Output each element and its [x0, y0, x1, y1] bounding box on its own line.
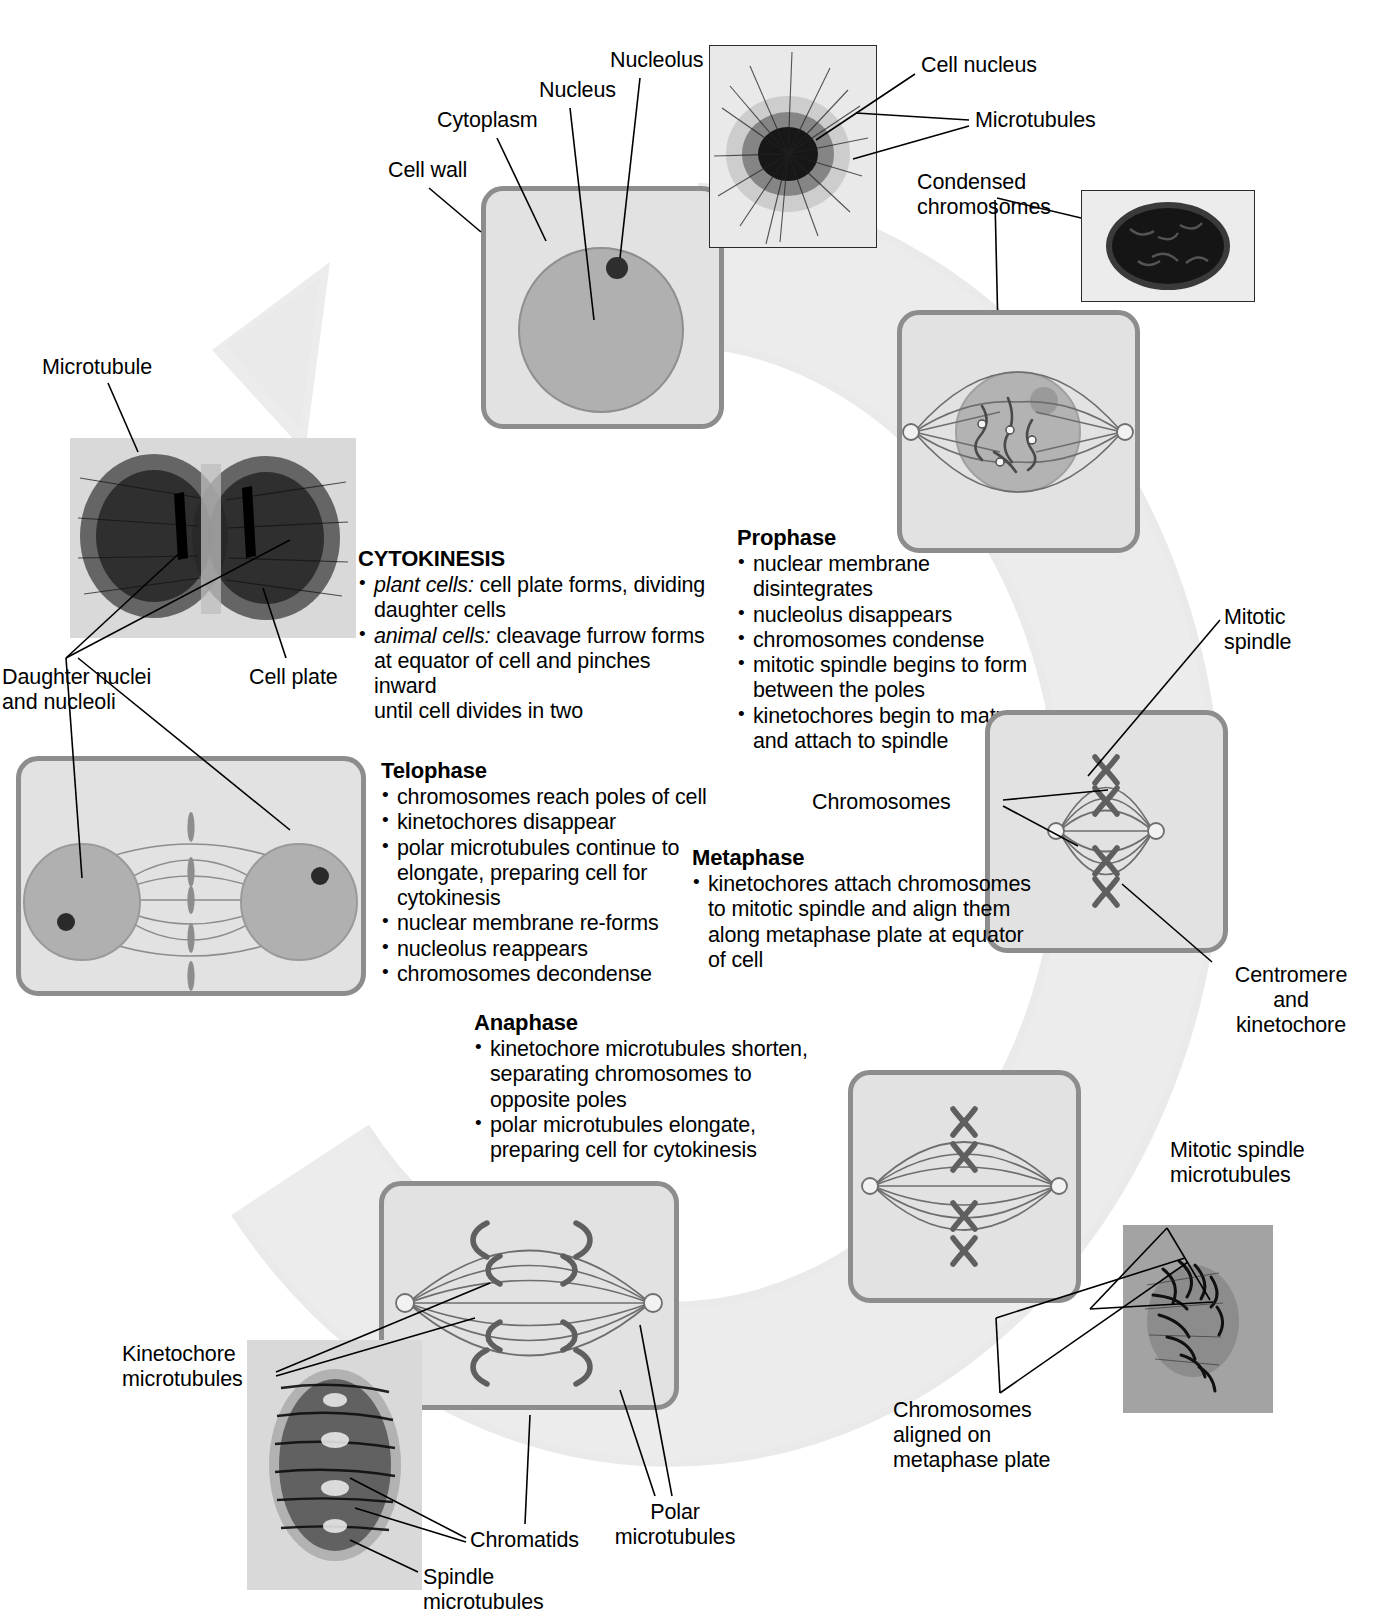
label-microtubule: Microtubule [42, 355, 152, 380]
anaphase-heading: Anaphase [474, 1010, 824, 1036]
micrograph-spindle-microtubules [247, 1340, 422, 1590]
telophase-bullet: chromosomes reach poles of cell [381, 785, 711, 810]
prophase-bullet: chromosomes condense [737, 628, 1067, 653]
telophase-bullet: polar microtubules continue to elongate,… [381, 836, 711, 912]
telophase-bullet: chromosomes decondense [381, 962, 711, 987]
telophase-heading: Telophase [381, 758, 711, 784]
micrograph-condensed-chromosomes [1081, 190, 1255, 302]
metaphase-heading: Metaphase [692, 845, 1037, 871]
label-nucleus: Nucleus [539, 78, 616, 103]
label-mitotic-spindle: Mitotic spindle [1224, 605, 1291, 655]
telophase-bullet: nuclear membrane re-forms [381, 911, 711, 936]
prophase-heading: Prophase [737, 525, 1067, 551]
telophase-bullet: nucleolus reappears [381, 937, 711, 962]
phase-metaphase: Metaphase kinetochores attach chromosome… [692, 845, 1037, 973]
anaphase-bullet: polar microtubules elongate, preparing c… [474, 1113, 824, 1164]
label-polar-microtubules: Polar microtubules [600, 1500, 750, 1550]
phase-anaphase: Anaphase kinetochore microtubules shorte… [474, 1010, 824, 1163]
telophase-bullet: kinetochores disappear [381, 810, 711, 835]
anaphase-cell-diagram [379, 1181, 679, 1410]
phase-cytokinesis: CYTOKINESIS plant cells: cell plate form… [358, 546, 718, 725]
prophase-bullet: mitotic spindle begins to form between t… [737, 653, 1067, 704]
telophase-cell-diagram [16, 756, 366, 996]
label-cytoplasm: Cytoplasm [437, 108, 538, 133]
prophase-cell-diagram [897, 310, 1140, 553]
metaphase-bullet-list: kinetochores attach chromosomes to mitot… [692, 872, 1037, 973]
micrograph-cell-nucleus-microtubules [709, 45, 877, 248]
cytokinesis-bullet-list: plant cells: cell plate forms, dividing … [358, 573, 718, 725]
label-microtubules: Microtubules [975, 108, 1096, 133]
prophase-bullet: nuclear membrane disintegrates [737, 552, 1067, 603]
micrograph-daughter-nuclei-cell-plate [70, 438, 356, 638]
anaphase-bullet: kinetochore microtubules shorten, separa… [474, 1037, 824, 1113]
label-centromere-kinetochore: Centromere and kinetochore [1206, 963, 1376, 1038]
label-condensed-chromosomes: Condensed chromosomes [917, 170, 1051, 220]
phase-telophase: Telophase chromosomes reach poles of cel… [381, 758, 711, 987]
cytokinesis-emph: animal cells: [374, 624, 490, 648]
label-mitotic-spindle-microtubules: Mitotic spindle microtubules [1170, 1138, 1305, 1188]
label-cell-plate: Cell plate [249, 665, 338, 690]
label-chromosomes-aligned: Chromosomes aligned on metaphase plate [893, 1398, 1050, 1473]
mitosis-diagram-page: Cell wall Cytoplasm Nucleus Nucleolus Ce… [0, 0, 1387, 1620]
metaphase-bullet: kinetochores attach chromosomes to mitot… [692, 872, 1037, 973]
telophase-bullet-list: chromosomes reach poles of cell kinetoch… [381, 785, 711, 987]
label-nucleolus: Nucleolus [610, 48, 704, 73]
label-kinetochore-microtubules: Kinetochore microtubules [122, 1342, 243, 1392]
cytokinesis-bullet: plant cells: cell plate forms, dividing … [358, 573, 718, 624]
cytokinesis-heading: CYTOKINESIS [358, 546, 718, 572]
cytokinesis-bullet: animal cells: cleavage furrow forms at e… [358, 624, 718, 725]
label-spindle-microtubules: Spindle microtubules [423, 1565, 544, 1615]
anaphase-bullet-list: kinetochore microtubules shorten, separa… [474, 1037, 824, 1163]
prophase-bullet: nucleolus disappears [737, 603, 1067, 628]
label-chromatids: Chromatids [470, 1528, 579, 1553]
label-daughter-nuclei: Daughter nuclei and nucleoli [2, 665, 151, 715]
interphase-cell-diagram [481, 186, 724, 429]
cytokinesis-emph: plant cells: [374, 573, 474, 597]
label-cell-wall: Cell wall [388, 158, 467, 183]
micrograph-metaphase-plate [1123, 1225, 1273, 1413]
metaphase-plate-cell-diagram [848, 1070, 1081, 1303]
label-cell-nucleus: Cell nucleus [921, 53, 1037, 78]
label-chromosomes-metaphase: Chromosomes [812, 790, 951, 815]
